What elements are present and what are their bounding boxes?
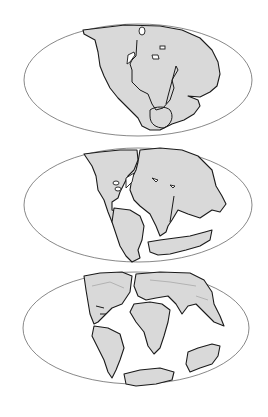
map-2-breakup (24, 148, 252, 262)
island (115, 187, 121, 191)
island (160, 46, 165, 49)
island (113, 181, 119, 185)
map-1-pangaea (24, 24, 252, 136)
island (152, 55, 159, 59)
map-3-modern (23, 272, 249, 386)
inland-sea (139, 27, 145, 35)
continental-drift-figure (0, 0, 268, 417)
